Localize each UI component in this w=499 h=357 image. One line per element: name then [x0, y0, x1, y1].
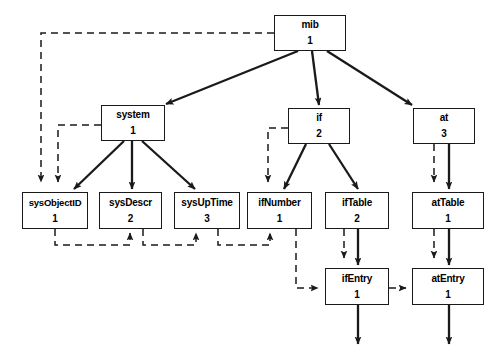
- node-ifentry-label: ifEntry: [342, 273, 372, 285]
- node-at-index: 3: [441, 128, 447, 140]
- node-at-label: at: [440, 112, 449, 124]
- node-system-label: system: [116, 109, 149, 121]
- node-sysobjectid[interactable]: sysObjectID 1: [22, 192, 88, 229]
- node-atentry-label: atEntry: [431, 273, 464, 285]
- node-ifnumber-label: ifNumber: [258, 197, 300, 209]
- node-mib[interactable]: mib 1: [274, 15, 346, 51]
- node-mib-index: 1: [307, 35, 313, 47]
- node-if-label: if: [316, 112, 322, 124]
- edge-mib-if: [312, 51, 319, 105]
- node-ifentry[interactable]: ifEntry 1: [325, 268, 389, 305]
- node-ifnumber-index: 1: [277, 213, 283, 225]
- node-system[interactable]: system 1: [101, 105, 165, 141]
- node-sysdescr-index: 2: [128, 213, 134, 225]
- node-system-index: 1: [130, 125, 136, 137]
- node-atentry-index: 1: [445, 289, 451, 301]
- node-iftable[interactable]: ifTable 2: [325, 192, 389, 229]
- node-sysuptime-label: sysUpTime: [181, 197, 232, 209]
- edge-mib-system: [166, 51, 298, 104]
- node-sysobjectid-index: 1: [52, 213, 58, 225]
- dashed-sysdescr-sysuptime: [143, 229, 196, 245]
- node-sysdescr[interactable]: sysDescr 2: [99, 192, 162, 229]
- edge-mib-at: [327, 51, 412, 105]
- edge-if-iftable: [329, 144, 358, 189]
- dashed-system-sysobjectid: [58, 125, 101, 182]
- node-sysuptime-index: 3: [204, 213, 210, 225]
- node-atentry[interactable]: atEntry 1: [412, 268, 484, 305]
- edge-system-sysuptime: [142, 141, 195, 189]
- node-iftable-index: 2: [354, 213, 360, 225]
- dashed-edge-group: [41, 33, 434, 288]
- node-if[interactable]: if 2: [288, 108, 350, 144]
- node-ifnumber[interactable]: ifNumber 1: [247, 192, 312, 229]
- dashed-sysobjectid-sysdescr: [55, 229, 130, 245]
- node-if-index: 2: [316, 128, 322, 140]
- edge-system-sysobjectid: [74, 141, 124, 189]
- node-attable-label: atTable: [432, 197, 465, 209]
- dashed-ifnumber-ifentry: [296, 229, 318, 288]
- dashed-sysuptime-ifnumber: [218, 229, 270, 245]
- node-mib-label: mib: [301, 19, 318, 31]
- edge-if-ifnumber: [284, 144, 306, 189]
- node-iftable-label: ifTable: [342, 197, 372, 209]
- node-sysuptime[interactable]: sysUpTime 3: [174, 192, 240, 229]
- node-attable-index: 1: [445, 213, 451, 225]
- node-ifentry-index: 1: [354, 289, 360, 301]
- node-attable[interactable]: atTable 1: [412, 192, 484, 229]
- node-sysdescr-label: sysDescr: [109, 197, 152, 209]
- node-sysobjectid-label: sysObjectID: [29, 197, 82, 209]
- dashed-if-ifnumber: [268, 128, 288, 182]
- node-at[interactable]: at 3: [413, 108, 475, 144]
- mib-tree-diagram: mib 1 system 1 if 2 at 3 sysObjectID 1 s…: [0, 0, 499, 357]
